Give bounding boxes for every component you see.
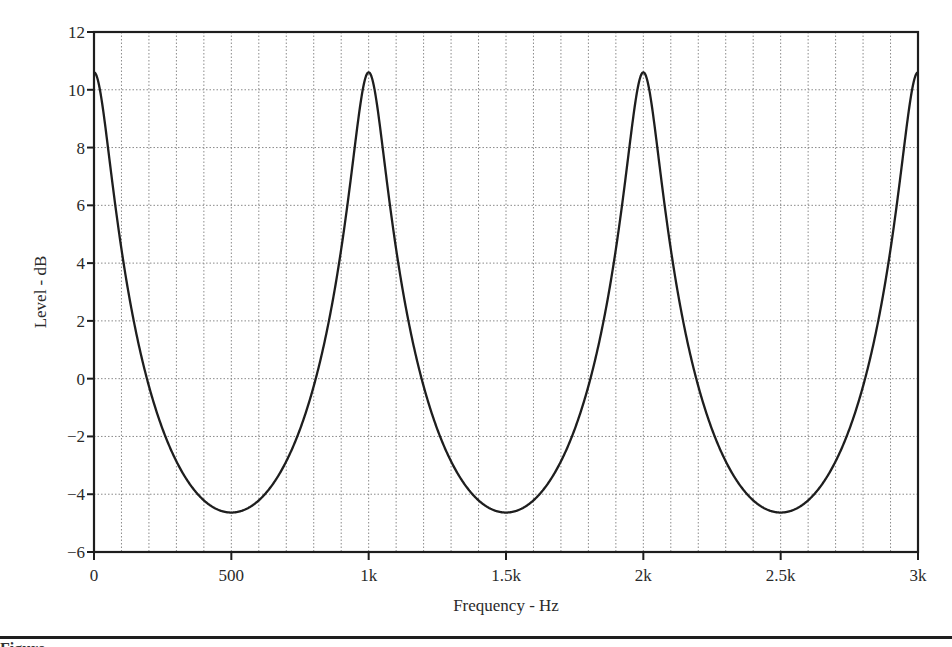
figure-caption-text: Figure bbox=[0, 641, 952, 647]
y-tick-label: −4 bbox=[67, 485, 86, 504]
y-axis-title: Level - dB bbox=[31, 256, 50, 329]
y-tick-label: 2 bbox=[77, 312, 86, 331]
x-tick-label: 1.5k bbox=[491, 566, 521, 585]
y-tick-label: −2 bbox=[67, 427, 85, 446]
x-tick-label: 0 bbox=[90, 566, 99, 585]
y-tick-label: 4 bbox=[77, 254, 86, 273]
y-axis-ticks: −6−4−2024681012 bbox=[67, 23, 94, 562]
caption-divider bbox=[0, 636, 952, 639]
y-tick-label: 10 bbox=[68, 81, 85, 100]
figure-caption: Figure bbox=[0, 641, 952, 647]
x-tick-label: 500 bbox=[219, 566, 245, 585]
x-tick-label: 3k bbox=[910, 566, 928, 585]
x-axis-ticks: 05001k1.5k2k2.5k3k bbox=[90, 552, 927, 585]
x-tick-label: 2k bbox=[635, 566, 653, 585]
y-tick-label: 6 bbox=[77, 196, 86, 215]
x-axis-title: Frequency - Hz bbox=[453, 596, 559, 615]
y-tick-label: 0 bbox=[77, 370, 86, 389]
grid-lines bbox=[94, 32, 918, 552]
x-tick-label: 2.5k bbox=[766, 566, 796, 585]
y-tick-label: −6 bbox=[67, 543, 85, 562]
y-tick-label: 12 bbox=[68, 23, 85, 42]
y-tick-label: 8 bbox=[77, 139, 86, 158]
comb-filter-response-chart: −6−4−2024681012 05001k1.5k2k2.5k3k Frequ… bbox=[0, 0, 952, 647]
x-tick-label: 1k bbox=[360, 566, 378, 585]
